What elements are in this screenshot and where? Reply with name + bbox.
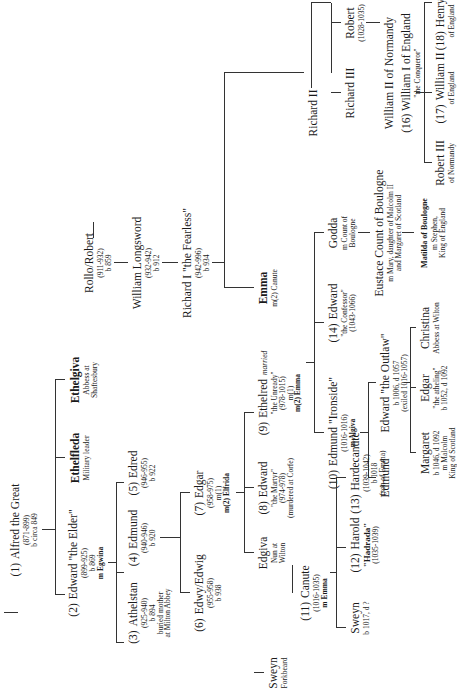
connector: [116, 642, 124, 643]
connector: [336, 627, 346, 628]
node-harold: (12) Harold "Hadrada" (1035-1039): [346, 517, 380, 572]
connector: [336, 547, 346, 548]
connector: [292, 565, 293, 593]
node-sweyn-forkbeard: Sweyn Forkbeard: [264, 657, 289, 688]
connector: [254, 672, 264, 673]
node-sweyn-2: Sweyn b 1017, d ?: [346, 601, 371, 634]
connector: [336, 477, 346, 478]
connector: [336, 478, 337, 628]
node-hardecanute: (13) Hardecanute (1039-1042) b 1018 (son…: [346, 432, 386, 513]
node-canute: (11) Canute (1016-1035) m Emma: [296, 565, 329, 620]
